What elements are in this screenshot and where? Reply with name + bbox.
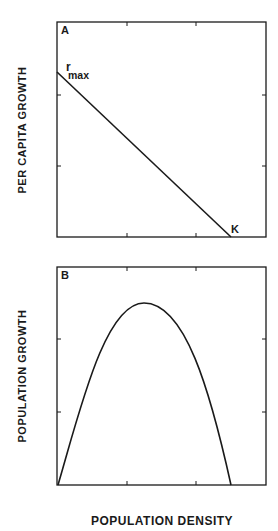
per-capita-growth-line (57, 72, 231, 237)
panel-b-ticks (57, 267, 266, 485)
panel-a-ticks (57, 22, 266, 237)
figure: A r max K PER CAPITA GROWTH B POPULATION… (0, 0, 278, 531)
panel-a-label: A (61, 24, 69, 36)
panel-b-label: B (61, 269, 69, 281)
population-growth-curve (58, 303, 231, 485)
panel-a: A r max K PER CAPITA GROWTH (16, 22, 266, 237)
k-label: K (231, 223, 239, 235)
panel-b-ylabel: POPULATION GROWTH (16, 310, 28, 443)
rmax-label-sub: max (68, 69, 89, 81)
panel-a-frame (57, 22, 266, 237)
x-axis-label: POPULATION DENSITY (91, 514, 233, 528)
panel-a-ylabel: PER CAPITA GROWTH (16, 66, 28, 193)
panel-b: B POPULATION GROWTH (16, 267, 266, 485)
panel-b-frame (57, 267, 266, 485)
